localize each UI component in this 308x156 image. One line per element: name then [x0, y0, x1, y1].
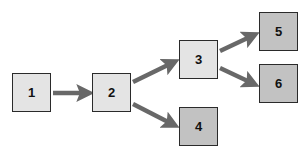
node-4-label: 4 [195, 119, 202, 134]
arrow-2-to-4 [133, 104, 174, 125]
node-5: 5 [259, 12, 298, 51]
node-3-label: 3 [195, 52, 202, 67]
arrow-3-to-6 [220, 68, 254, 84]
flow-diagram: 1 2 3 4 5 6 [0, 0, 308, 156]
node-1: 1 [12, 73, 51, 112]
node-4: 4 [179, 107, 218, 146]
node-5-label: 5 [275, 24, 282, 39]
node-6-label: 6 [275, 76, 282, 91]
arrow-2-to-3 [133, 62, 174, 82]
node-6: 6 [259, 64, 298, 103]
node-2: 2 [92, 73, 131, 112]
node-3: 3 [179, 40, 218, 79]
node-2-label: 2 [108, 85, 115, 100]
node-1-label: 1 [28, 85, 35, 100]
arrow-3-to-5 [220, 35, 254, 51]
